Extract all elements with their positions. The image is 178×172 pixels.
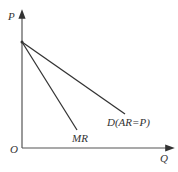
mr-label: MR xyxy=(71,132,88,144)
monopoly-demand-mr-diagram: P Q O MR D(AR=P) xyxy=(0,0,178,172)
x-axis-label: Q xyxy=(160,152,168,164)
origin-label: O xyxy=(10,143,18,155)
demand-label: D(AR=P) xyxy=(106,116,150,129)
y-axis-label: P xyxy=(7,10,15,22)
intercept-point xyxy=(21,41,24,44)
demand-curve xyxy=(22,42,125,114)
mr-curve xyxy=(22,42,77,130)
